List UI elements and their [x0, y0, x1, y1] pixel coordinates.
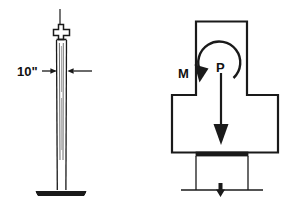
axial-label-P: P — [216, 60, 225, 75]
shaft-left-flange-edge — [57, 40, 58, 190]
shaft-right-flange-edge — [66, 40, 67, 190]
bearing-plate — [196, 152, 248, 156]
engineering-figure: 10" — [0, 0, 288, 212]
figure-root: 10" — [0, 0, 288, 212]
moment-label-M: M — [178, 66, 189, 81]
shaft-web-line-left — [59, 43, 60, 160]
dimension-label-10in: 10" — [17, 64, 38, 79]
base-plate-body — [36, 192, 86, 196]
base-plate — [36, 192, 86, 196]
